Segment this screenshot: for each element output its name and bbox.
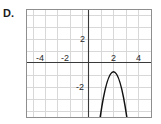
choice-option-panel: D.: [0, 0, 161, 124]
x-tick-label-pos4: 4: [136, 54, 141, 63]
x-tick-label-pos2: 2: [111, 54, 116, 63]
y-tick-label-neg2: -2: [76, 83, 84, 92]
y-tick-label-pos2: 2: [80, 35, 85, 44]
x-tick-label-neg2: -2: [61, 54, 69, 63]
vertical-gridlines: [34, 10, 139, 117]
choice-letter-label: D.: [3, 7, 14, 19]
x-tick-label-neg4: -4: [36, 54, 44, 63]
coordinate-plane-svg: [27, 10, 151, 117]
graph-plot-frame: -4 -2 2 4 2 -2: [26, 9, 152, 118]
